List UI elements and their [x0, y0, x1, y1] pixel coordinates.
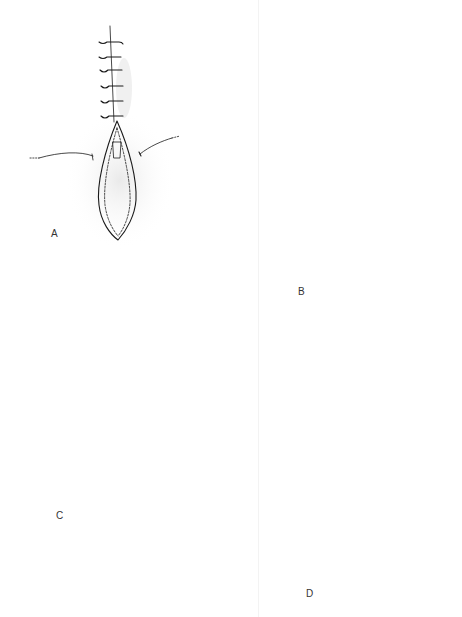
surgical-illustration: A B C D: [0, 0, 462, 617]
panel-label-b: B: [298, 286, 305, 297]
illustration-drawing: [0, 0, 462, 617]
panel-a: [30, 26, 180, 250]
panel-label-c: C: [56, 510, 63, 521]
panel-label-d: D: [306, 588, 313, 599]
panel-label-a: A: [51, 228, 58, 239]
